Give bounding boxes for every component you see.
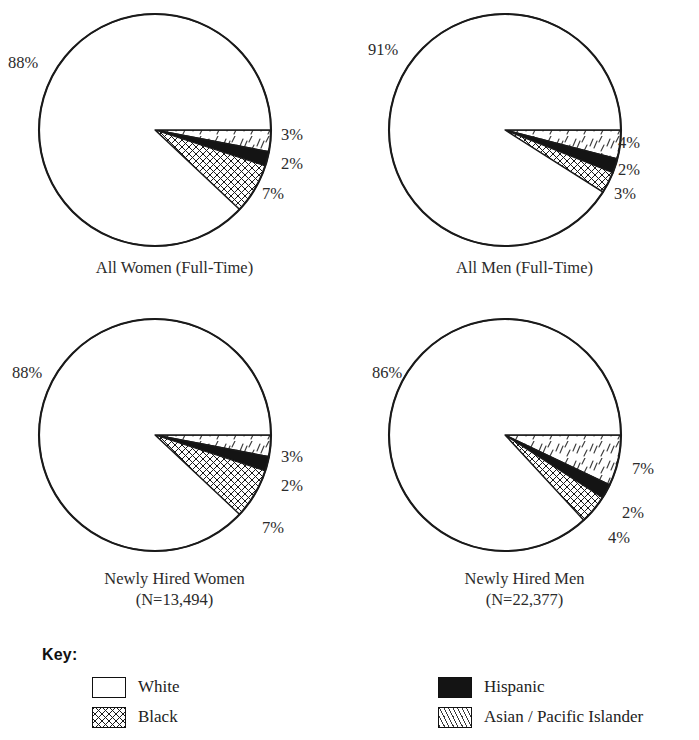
pie-label-white-all-women: 88% — [8, 55, 38, 72]
legend-item-asian[interactable]: Asian / Pacific Islander — [438, 702, 643, 732]
pie-label-hispanic-all-women: 2% — [281, 156, 303, 173]
legend-item-hispanic[interactable]: Hispanic — [438, 672, 643, 702]
legend-swatch-hispanic-icon — [438, 677, 472, 698]
pie-caption-main: All Men (Full-Time) — [456, 258, 593, 277]
pie-svg-newly-hired-men — [350, 305, 699, 567]
pie-label-hispanic-newly-hired-men: 2% — [622, 505, 644, 522]
pie-label-white-newly-hired-women: 88% — [12, 365, 42, 382]
legend-column-right: Hispanic Asian / Pacific Islander — [438, 672, 643, 732]
pie-caption-main: Newly Hired Women — [104, 569, 244, 588]
pie-label-asian-newly-hired-women: 3% — [281, 449, 303, 466]
pie-label-black-newly-hired-men: 4% — [608, 530, 630, 547]
legend-item-white[interactable]: White — [92, 672, 180, 702]
legend-label-hispanic: Hispanic — [484, 677, 544, 697]
pie-svg-newly-hired-women — [0, 305, 349, 567]
pie-caption-all-men: All Men (Full-Time) — [350, 258, 699, 279]
pie-label-hispanic-all-men: 2% — [618, 162, 640, 179]
pie-label-asian-newly-hired-men: 7% — [632, 461, 654, 478]
pie-label-black-all-women: 7% — [262, 186, 284, 203]
pie-caption-sub: (N=22,377) — [350, 590, 699, 611]
pie-label-hispanic-newly-hired-women: 2% — [281, 478, 303, 495]
legend-swatch-asian-icon — [438, 707, 472, 728]
pie-chart-figure: 88% 3% 2% 7% All Women (Full-Time) 91% 4… — [0, 0, 699, 740]
pie-slice-white[interactable] — [389, 14, 621, 246]
legend-swatch-white-icon — [92, 677, 126, 698]
pie-slice-white[interactable] — [39, 319, 271, 551]
pie-caption-sub: (N=13,494) — [0, 590, 349, 611]
pie-svg-all-men — [350, 0, 699, 262]
pie-caption-all-women: All Women (Full-Time) — [0, 258, 349, 279]
pie-caption-newly-hired-women: Newly Hired Women (N=13,494) — [0, 569, 349, 610]
legend: Key: White Black Hispanic Asian / Pacifi… — [0, 638, 699, 740]
legend-swatch-black-icon — [92, 707, 126, 728]
legend-item-black[interactable]: Black — [92, 702, 180, 732]
pie-label-black-all-men: 3% — [614, 186, 636, 203]
pie-caption-main: Newly Hired Men — [464, 569, 584, 588]
pie-label-white-newly-hired-men: 86% — [372, 365, 402, 382]
pie-label-asian-all-women: 3% — [281, 127, 303, 144]
legend-label-black: Black — [138, 707, 178, 727]
legend-label-white: White — [138, 677, 180, 697]
legend-label-asian: Asian / Pacific Islander — [484, 707, 643, 727]
pie-label-black-newly-hired-women: 7% — [262, 520, 284, 537]
pie-label-asian-all-men: 4% — [618, 135, 640, 152]
pie-caption-main: All Women (Full-Time) — [96, 258, 253, 277]
pie-label-white-all-men: 91% — [368, 42, 398, 59]
pie-slice-white[interactable] — [39, 14, 271, 246]
legend-column-left: White Black — [92, 672, 180, 732]
pie-caption-newly-hired-men: Newly Hired Men (N=22,377) — [350, 569, 699, 610]
legend-title: Key: — [42, 646, 77, 664]
